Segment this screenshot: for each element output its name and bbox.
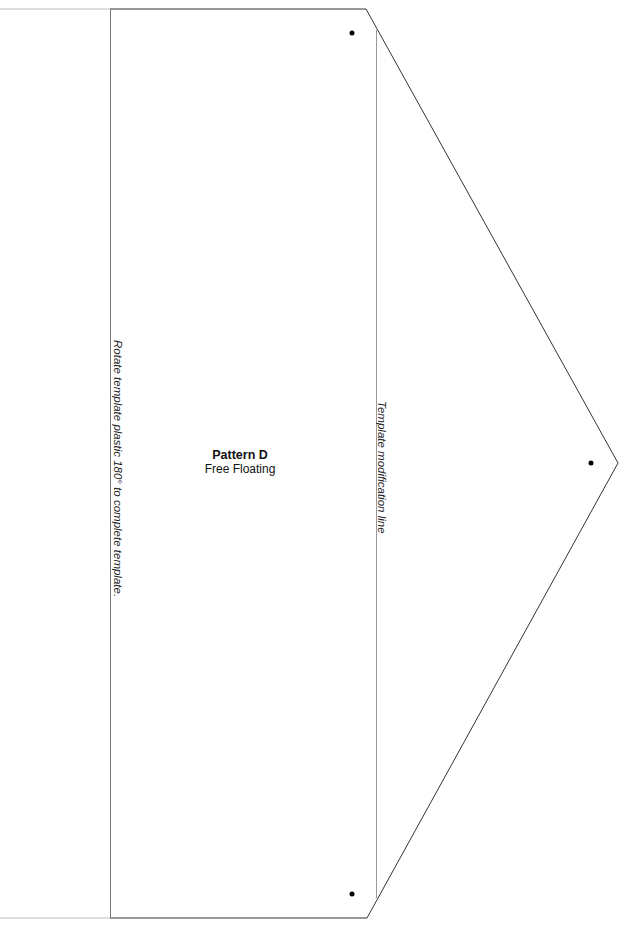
hole-dot-point xyxy=(589,461,594,466)
modification-line-label: Template modification line xyxy=(376,401,388,534)
hole-dot-bottom xyxy=(350,892,355,897)
template-shape xyxy=(110,9,618,918)
template-outline xyxy=(0,0,635,930)
pattern-title: Pattern D xyxy=(190,448,290,462)
rotate-instruction: Rotate template plastic 180° to complete… xyxy=(112,340,124,597)
pattern-subtitle: Free Floating xyxy=(190,462,290,476)
hole-dot-top xyxy=(350,31,355,36)
pattern-title-block: Pattern D Free Floating xyxy=(190,448,290,476)
